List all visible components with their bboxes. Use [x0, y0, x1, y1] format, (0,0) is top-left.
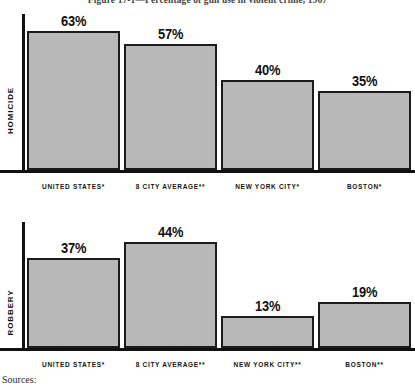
bar-value-label: 35% — [352, 73, 377, 89]
axis-title-robbery: ROBBERY — [6, 287, 15, 339]
bar-item-homicide-boston[interactable]: 35% — [316, 12, 413, 170]
bar-value-label: 44% — [158, 224, 183, 240]
bar-item-robbery-8-city-average[interactable]: 44% — [122, 220, 219, 348]
bar-value-label: 63% — [61, 13, 86, 29]
bar-rect — [221, 316, 314, 348]
bar-rect — [27, 31, 120, 170]
bar-rect — [318, 91, 411, 170]
category-label-homicide-3: BOSTON* — [316, 183, 413, 190]
figure-title: Figure 17-1—Percentage of gun use in vio… — [0, 0, 415, 5]
category-label-homicide-0: UNITED STATES* — [25, 183, 122, 190]
bar-item-homicide-united-states[interactable]: 63% — [25, 12, 122, 170]
category-labels-robbery: UNITED STATES* 8 CITY AVERAGE** NEW YORK… — [25, 361, 413, 368]
bar-rect — [124, 44, 217, 170]
bar-rect — [221, 80, 314, 170]
bar-rect — [318, 302, 411, 348]
category-label-robbery-3: BOSTON** — [316, 361, 413, 368]
bar-group-homicide: 63% 57% 40% 35% — [25, 12, 413, 170]
bar-rect — [124, 242, 217, 348]
bar-value-label: 13% — [255, 298, 280, 314]
chart-panel-homicide: HOMICIDE 63% 57% 40% 35% UNITED STATES* … — [0, 8, 415, 194]
category-label-homicide-1: 8 CITY AVERAGE** — [122, 183, 219, 190]
x-axis-line-homicide — [0, 170, 415, 173]
bar-item-robbery-new-york-city[interactable]: 13% — [219, 220, 316, 348]
category-label-robbery-1: 8 CITY AVERAGE** — [122, 361, 219, 368]
bar-item-robbery-boston[interactable]: 19% — [316, 220, 413, 348]
bar-item-homicide-8-city-average[interactable]: 57% — [122, 12, 219, 170]
x-axis-line-robbery — [0, 348, 415, 351]
chart-panel-robbery: ROBBERY 37% 44% 13% 19% UNITED STATES* 8… — [0, 216, 415, 372]
category-labels-homicide: UNITED STATES* 8 CITY AVERAGE** NEW YORK… — [25, 183, 413, 190]
bar-item-robbery-united-states[interactable]: 37% — [25, 220, 122, 348]
bar-group-robbery: 37% 44% 13% 19% — [25, 220, 413, 348]
bar-value-label: 37% — [61, 240, 86, 256]
bar-rect — [27, 258, 120, 348]
category-label-robbery-2: NEW YORK CITY** — [219, 361, 316, 368]
bar-value-label: 57% — [158, 26, 183, 42]
bar-value-label: 40% — [255, 62, 280, 78]
bar-item-homicide-new-york-city[interactable]: 40% — [219, 12, 316, 170]
bar-value-label: 19% — [352, 284, 377, 300]
axis-title-homicide: HOMICIDE — [6, 85, 15, 137]
category-label-homicide-2: NEW YORK CITY* — [219, 183, 316, 190]
sources-label: Sources: — [2, 374, 36, 385]
category-label-robbery-0: UNITED STATES* — [25, 361, 122, 368]
